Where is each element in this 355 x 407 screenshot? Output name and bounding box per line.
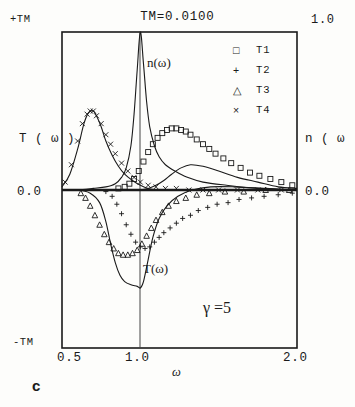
left-axis-top-tick: +TM [10, 14, 30, 25]
x-axis-tick-2: 2.0 [283, 352, 308, 365]
curve-label-n: n(ω) [147, 56, 171, 69]
left-axis-label: T ( ω ) [19, 133, 75, 146]
legend-label-t1: T1 [256, 44, 271, 56]
legend-label-t2: T2 [256, 64, 271, 76]
curve-label-T: T(ω) [143, 262, 168, 275]
legend-label-t3: T3 [256, 84, 271, 96]
series-t1-markers [116, 126, 295, 191]
gamma-annotation: γ =5 [203, 300, 231, 316]
right-axis-top-tick: 1.0 [311, 14, 335, 26]
right-axis-label: n ( ω [305, 133, 345, 146]
legend-square-marker: □ [233, 44, 240, 56]
legend-label-t4: T4 [256, 104, 271, 116]
series-t2-markers [103, 189, 294, 251]
right-axis-zero-tick: 0.0 [305, 186, 330, 199]
series-t3-markers [78, 187, 292, 257]
panel-label: c [32, 378, 40, 393]
legend-cross-marker: × [233, 104, 240, 116]
x-axis-tick-0: 0.5 [57, 352, 82, 365]
legend-triangle-marker: △ [233, 84, 242, 96]
plot-canvas [0, 0, 355, 407]
series-t-curve [62, 187, 297, 289]
legend-plus-marker: + [233, 64, 240, 76]
left-axis-bottom-tick: -TM [13, 337, 33, 348]
x-axis-tick-1: 1.0 [125, 352, 150, 365]
left-axis-zero-tick: 0.0 [17, 186, 42, 199]
series-t4-markers [63, 109, 284, 193]
x-axis-label: ω [172, 366, 181, 379]
figure-chart: TM=0.0100 +TM -TM 0.0 T ( ω ) 1.0 0.0 n … [0, 0, 355, 407]
chart-title: TM=0.0100 [0, 11, 355, 24]
